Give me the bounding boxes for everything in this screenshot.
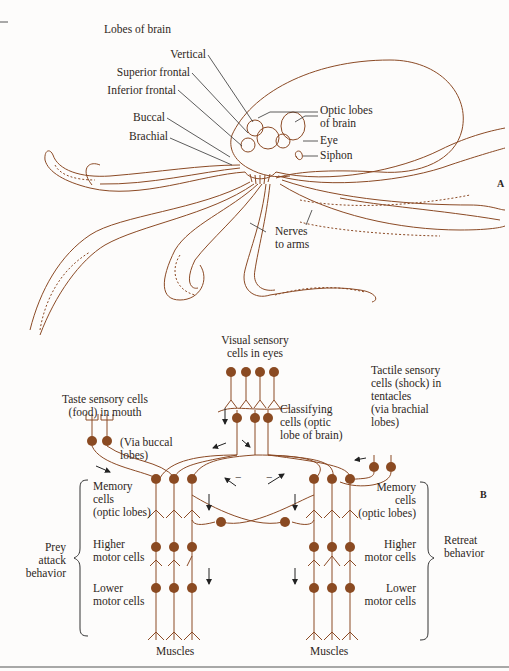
label-nerves-to-arms: Nerves to arms (275, 225, 309, 251)
label-right-muscles: Muscles (310, 645, 348, 658)
label-siphon: Siphon (320, 149, 353, 162)
octopus-outline (30, 60, 505, 335)
panel-a-leaders (167, 55, 318, 232)
label-superior-frontal-lobe: Superior frontal (90, 66, 190, 79)
label-left-lower-motor-cells: Lower motor cells (93, 582, 144, 608)
label-taste-sensory-cells: Taste sensory cells (food) in mouth (50, 393, 160, 419)
label-via-buccal-lobes: (Via buccal lobes) (120, 436, 173, 462)
label-prey-attack-behavior: Prey attack behavior (14, 541, 66, 580)
label-tactile-sensory-cells: Tactile sensory cells (shock) in tentacl… (371, 364, 441, 429)
panel-letter-b: B (480, 489, 487, 500)
label-vertical-lobe: Vertical (150, 48, 206, 61)
label-left-muscles: Muscles (156, 645, 194, 658)
panel-letter-a: A (497, 178, 504, 189)
lobes-of-brain-title: Lobes of brain (104, 23, 171, 36)
label-classifying-cells: Classifying cells (optic lobe of brain) (280, 403, 343, 442)
label-left-memory-cells: Memory cells (optic lobes) (93, 480, 151, 519)
label-buccal-lobe: Buccal (110, 111, 165, 124)
label-visual-sensory-cells: Visual sensory cells in eyes (200, 334, 310, 360)
label-right-lower-motor-cells: Lower motor cells (340, 582, 416, 608)
label-brachial-lobe: Brachial (100, 130, 168, 143)
label-eye: Eye (320, 134, 338, 147)
label-optic-lobes: Optic lobes of brain (320, 104, 373, 130)
inhibition-mark-right: − (266, 471, 273, 484)
label-inferior-frontal-lobe: Inferior frontal (80, 84, 176, 97)
label-right-memory-cells: Memory cells (optic lobes) (340, 481, 416, 520)
label-right-higher-motor-cells: Higher motor cells (340, 538, 416, 564)
inhibition-mark-left: − (235, 471, 242, 484)
octopus-brain-figure: Lobes of brain Vertical Superior frontal… (0, 0, 509, 671)
label-left-higher-motor-cells: Higher motor cells (93, 538, 144, 564)
label-retreat-behavior: Retreat behavior (444, 534, 484, 560)
